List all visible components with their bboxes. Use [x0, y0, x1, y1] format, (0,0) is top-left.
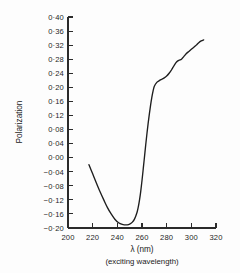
x-axis-tick-label: 320: [209, 233, 222, 242]
y-axis-tick-label: −0·12: [44, 196, 64, 205]
x-axis-title: λ (nm): [130, 245, 153, 254]
y-axis-tick-label: 0·40: [48, 13, 64, 22]
x-axis-tick-label: 260: [135, 233, 148, 242]
y-axis-tick-label: −0·16: [44, 210, 64, 219]
y-axis-tick-label: 0·20: [48, 83, 64, 92]
y-axis-title: Polarization: [15, 100, 24, 143]
chart-figure: 0·400·360·320·280·240·200·160·120·080·04…: [0, 0, 240, 273]
x-axis-tick-label: 220: [86, 233, 99, 242]
y-axis-tick-marks: [68, 17, 73, 228]
y-axis-tick-label: 0·12: [48, 111, 64, 120]
y-axis-tick-label: 0·04: [48, 139, 64, 148]
x-axis-tick-marks: [68, 223, 216, 228]
x-axis-tick-labels: 200220240260280300320: [61, 233, 222, 242]
x-axis-tick-label: 300: [185, 233, 198, 242]
x-axis-tick-label: 240: [111, 233, 124, 242]
data-series-curve: [89, 40, 204, 225]
x-axis-tick-label: 280: [160, 233, 173, 242]
y-axis-tick-label: 0·36: [48, 27, 64, 36]
polarization-line-chart: 0·400·360·320·280·240·200·160·120·080·04…: [0, 0, 240, 273]
y-axis-tick-label: −0·04: [44, 168, 64, 177]
y-axis-tick-label: 0·24: [48, 69, 64, 78]
y-axis-tick-label: 0·16: [48, 97, 64, 106]
y-axis-tick-label: −0·08: [44, 182, 64, 191]
y-axis-tick-label: −0·20: [44, 224, 64, 233]
x-axis-tick-label: 200: [61, 233, 74, 242]
x-axis-subtitle: (exciting wavelength): [105, 257, 179, 266]
y-axis-tick-label: 0·00: [48, 153, 64, 162]
y-axis-tick-labels: 0·400·360·320·280·240·200·160·120·080·04…: [44, 13, 64, 233]
y-axis-tick-label: 0·08: [48, 125, 64, 134]
y-axis-tick-label: 0·32: [48, 41, 64, 50]
y-axis-tick-label: 0·28: [48, 55, 64, 64]
